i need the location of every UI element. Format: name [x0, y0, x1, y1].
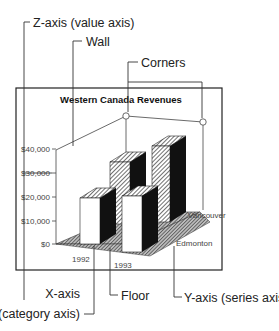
- z-axis-ticks: [52, 149, 56, 244]
- chart-anatomy-diagram: Western Canada Revenues $40,000 $30,000 …: [0, 0, 279, 331]
- corner-marker-right: [200, 119, 206, 125]
- svg-text:$20,000: $20,000: [21, 193, 50, 202]
- category-label-1992: 1992: [72, 255, 90, 264]
- callout-wall: Wall: [86, 35, 110, 49]
- svg-text:$10,000: $10,000: [21, 217, 50, 226]
- callout-x-axis-line2: (category axis): [0, 307, 80, 321]
- bar-edmonton-1992: [80, 188, 116, 244]
- z-axis-tick-labels: $40,000 $30,000 $20,000 $10,000 $0: [21, 145, 50, 249]
- corner-marker-left: [123, 113, 129, 119]
- callout-z-axis: Z-axis (value axis): [33, 16, 134, 30]
- category-label-1993: 1993: [114, 261, 132, 270]
- svg-text:$40,000: $40,000: [21, 145, 50, 154]
- chart-title: Western Canada Revenues: [60, 94, 182, 105]
- series-label-edmonton: Edmonton: [176, 239, 212, 248]
- callout-floor: Floor: [121, 289, 149, 303]
- svg-text:$0: $0: [41, 240, 50, 249]
- series-label-vancouver: Vancouver: [188, 211, 226, 220]
- callout-y-axis: Y-axis (series axis): [184, 291, 279, 305]
- callout-x-axis-line1: X-axis: [45, 287, 80, 301]
- svg-text:$30,000: $30,000: [21, 169, 50, 178]
- callout-corners: Corners: [141, 56, 185, 70]
- bar-edmonton-1993: [122, 186, 158, 252]
